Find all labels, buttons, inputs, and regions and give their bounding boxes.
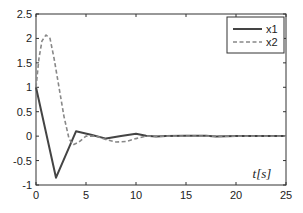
x-tick-label: 25 [280,189,292,201]
x-axis-label: t[s] [253,166,272,181]
y-tick-label: -0.5 [13,155,32,167]
x-tick-label: 20 [230,189,242,201]
y-tick-label: 0.5 [17,106,32,118]
y-tick-label: 2 [26,32,32,44]
legend-label-x1: x1 [266,23,278,35]
y-tick-label: 2.5 [17,8,32,20]
y-tick-label: 0 [26,130,32,142]
x-tick-label: 10 [130,189,142,201]
line-chart: -1-0.500.511.522.5 0510152025 x1x2 t[s] [0,0,303,213]
y-tick-label: -1 [22,179,32,191]
x-tick-label: 15 [180,189,192,201]
y-tick-label: 1 [26,81,32,93]
legend-label-x2: x2 [266,36,278,48]
legend: x1x2 [227,17,284,53]
x-tick-label: 5 [83,189,89,201]
y-tick-label: 1.5 [17,57,32,69]
x-tick-label: 0 [33,189,39,201]
